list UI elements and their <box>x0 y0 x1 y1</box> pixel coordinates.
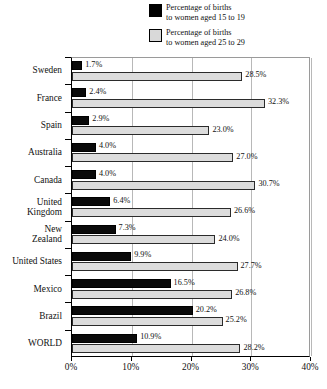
bar-teen <box>72 252 131 261</box>
bar-value-adult: 26.8% <box>235 288 256 297</box>
x-axis-tick <box>71 357 72 361</box>
x-axis-tick <box>250 357 251 361</box>
legend-label-adult-line1: Percentage of births <box>166 28 231 37</box>
plot-area: 1.7%28.5%2.4%32.3%2.9%23.0%4.0%27.0%4.0%… <box>71 57 310 357</box>
bar-group: 16.5%26.8% <box>72 276 309 303</box>
y-axis-label: Sweden <box>33 65 62 75</box>
x-axis-tick <box>310 357 311 361</box>
x-axis-tick-label: 30% <box>242 362 259 373</box>
bar-adult <box>72 208 231 217</box>
chart-legend: Percentage of births to women aged 15 to… <box>149 3 327 53</box>
bar-value-teen: 6.4% <box>113 196 130 205</box>
bar-value-teen: 9.9% <box>134 250 151 259</box>
x-axis-tick-label: 20% <box>182 362 199 373</box>
bar-value-teen: 7.3% <box>119 223 136 232</box>
y-axis-label: WORLD <box>28 338 62 348</box>
bar-value-adult: 24.0% <box>218 234 239 243</box>
bar-value-teen: 10.9% <box>140 332 161 341</box>
bar-adult <box>72 317 223 326</box>
bar-value-adult: 27.0% <box>236 152 257 161</box>
bar-adult <box>72 99 265 108</box>
bar-adult <box>72 126 209 135</box>
bar-teen <box>72 88 86 97</box>
bar-value-adult: 32.3% <box>268 97 289 106</box>
legend-label-teen: Percentage of births to women aged 15 to… <box>166 3 245 22</box>
x-axis-tick-label: 40% <box>301 362 318 373</box>
bar-value-teen: 4.0% <box>99 169 116 178</box>
bar-teen <box>72 306 193 315</box>
bar-value-teen: 1.7% <box>85 60 102 69</box>
legend-label-adult-line2: to women aged 25 to 29 <box>166 38 245 47</box>
bar-teen <box>72 61 82 70</box>
y-axis-label: France <box>37 93 62 103</box>
bar-group: 20.2%25.2% <box>72 303 309 330</box>
x-axis-tick-label: 0% <box>65 362 77 373</box>
bar-teen <box>72 197 110 206</box>
chart-container: Percentage of births to women aged 15 to… <box>0 0 327 389</box>
bar-group: 6.4%26.6% <box>72 194 309 221</box>
bar-teen <box>72 116 89 125</box>
bar-value-teen: 20.2% <box>196 305 217 314</box>
bar-teen <box>72 170 96 179</box>
y-axis-label: Australia <box>28 147 62 157</box>
bar-value-adult: 28.2% <box>243 343 264 352</box>
bar-teen <box>72 225 116 234</box>
y-axis-label: UnitedKingdom <box>27 197 62 218</box>
bar-value-teen: 4.0% <box>99 141 116 150</box>
legend-item-teen: Percentage of births to women aged 15 to… <box>149 3 327 22</box>
bar-group: 1.7%28.5% <box>72 58 309 85</box>
bar-value-adult: 26.6% <box>234 206 255 215</box>
legend-label-adult: Percentage of births to women aged 25 to… <box>166 28 245 47</box>
bar-adult <box>72 181 255 190</box>
bar-adult <box>72 72 242 81</box>
bar-group: 9.9%27.7% <box>72 249 309 276</box>
x-axis-tick <box>131 357 132 361</box>
legend-item-adult: Percentage of births to women aged 25 to… <box>149 28 327 47</box>
y-axis-label: Spain <box>41 120 62 130</box>
bar-teen <box>72 143 96 152</box>
legend-swatch-teen-icon <box>149 4 162 17</box>
bar-value-adult: 23.0% <box>212 125 233 134</box>
y-axis-label: NewZealand <box>32 224 62 245</box>
bar-value-teen: 2.4% <box>89 87 106 96</box>
x-axis-labels: 0%10%20%30%40% <box>0 360 327 378</box>
y-axis-label: Canada <box>34 175 62 185</box>
legend-swatch-adult-icon <box>149 29 162 42</box>
y-axis-labels: SwedenFranceSpainAustraliaCanadaUnitedKi… <box>0 57 68 357</box>
legend-label-teen-line2: to women aged 15 to 19 <box>166 13 245 22</box>
bar-adult <box>72 235 215 244</box>
bar-value-teen: 2.9% <box>92 114 109 123</box>
y-axis-label: Mexico <box>34 284 62 294</box>
bar-adult <box>72 262 238 271</box>
bar-value-adult: 27.7% <box>241 261 262 270</box>
bar-adult <box>72 290 232 299</box>
y-axis-label: Brazil <box>39 311 62 321</box>
bar-adult <box>72 153 233 162</box>
bar-group: 7.3%24.0% <box>72 222 309 249</box>
bar-teen <box>72 279 171 288</box>
x-axis-tick <box>191 357 192 361</box>
bar-group: 2.4%32.3% <box>72 85 309 112</box>
bar-value-adult: 28.5% <box>245 70 266 79</box>
bar-group: 10.9%28.2% <box>72 331 309 358</box>
gridline-40 <box>311 58 312 356</box>
y-axis-label: United States <box>12 256 62 266</box>
bar-adult <box>72 344 240 353</box>
bar-group: 4.0%27.0% <box>72 140 309 167</box>
legend-label-teen-line1: Percentage of births <box>166 3 231 12</box>
bar-value-adult: 30.7% <box>258 179 279 188</box>
bar-value-adult: 25.2% <box>226 315 247 324</box>
bar-value-teen: 16.5% <box>174 278 195 287</box>
bar-teen <box>72 334 137 343</box>
bar-group: 4.0%30.7% <box>72 167 309 194</box>
bar-group: 2.9%23.0% <box>72 113 309 140</box>
x-axis-tick-label: 10% <box>122 362 139 373</box>
